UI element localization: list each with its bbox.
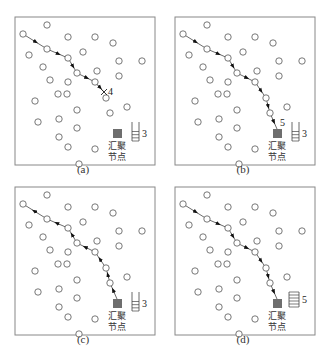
sensor-node [200, 64, 206, 70]
sensor-node [234, 277, 240, 283]
sensor-node [252, 34, 258, 40]
sink-label-line2: 节点 [268, 322, 286, 332]
direction-arrow-icon [216, 223, 219, 224]
sensor-node [207, 247, 213, 253]
sensor-node [92, 204, 98, 210]
sensor-node [299, 228, 305, 234]
sensor-node [92, 249, 98, 255]
panel-border [175, 187, 315, 335]
sensor-node [80, 49, 86, 55]
sensor-node [92, 79, 98, 85]
panel-border [175, 17, 315, 165]
sensor-node [224, 261, 230, 267]
sensor-node [47, 247, 53, 253]
direction-arrow-icon [259, 88, 261, 90]
buffer-count-label: 3 [142, 298, 147, 309]
sink-node-icon [273, 299, 282, 308]
sensor-node [180, 31, 186, 37]
direction-arrow-icon [244, 77, 247, 78]
sensor-node [276, 73, 282, 79]
sensor-node [74, 107, 80, 113]
sensor-node [252, 79, 258, 85]
direction-arrow-icon [98, 86, 100, 88]
direction-arrow-icon [108, 275, 109, 278]
sensor-node [20, 201, 26, 207]
sink-label-line1: 汇聚 [108, 311, 126, 321]
sensor-node [263, 95, 269, 101]
sensor-node [195, 119, 201, 125]
direction-arrow-icon [33, 40, 36, 42]
sensor-node [124, 104, 130, 110]
sensor-node [225, 204, 231, 210]
panel-c: 汇聚节点3 [15, 187, 155, 337]
sensor-node [284, 274, 290, 280]
panel-border [15, 187, 155, 335]
buffer-count-label: 3 [142, 128, 147, 139]
sensor-node [284, 104, 290, 110]
sensor-node [74, 295, 80, 301]
sensor-node [224, 91, 230, 97]
sensor-node [225, 314, 231, 320]
sensor-node [35, 289, 41, 295]
sensor-node [204, 192, 210, 198]
sensor-node [55, 261, 61, 267]
sensor-node [92, 34, 98, 40]
sensor-node [44, 46, 50, 52]
sensor-node [107, 110, 113, 116]
sensor-node [74, 125, 80, 131]
sensor-node [20, 31, 26, 37]
sensor-node [74, 70, 80, 76]
sink-label-line2: 节点 [108, 152, 126, 162]
direction-arrow-icon [57, 223, 60, 224]
direction-arrow-icon [267, 104, 268, 107]
sensor-node [116, 228, 122, 234]
sensor-node [252, 316, 258, 322]
sensor-node [80, 219, 86, 225]
sensor-node [263, 265, 269, 271]
sink-label-line2: 节点 [108, 322, 126, 332]
sensor-node [252, 204, 258, 210]
sensor-node [234, 70, 240, 76]
sensor-node [26, 52, 32, 58]
sensor-node [234, 240, 240, 246]
direction-arrow-icon [72, 235, 74, 238]
sensor-node [65, 144, 71, 150]
sensor-node [40, 64, 46, 70]
sensor-node [225, 249, 231, 255]
sensor-node [74, 240, 80, 246]
sensor-node [65, 79, 71, 85]
sensor-node [65, 225, 71, 231]
buffer-count-label: 3 [302, 128, 307, 139]
sink-label-line1: 汇聚 [268, 141, 286, 151]
sensor-node [116, 243, 122, 249]
sensor-node [192, 268, 198, 274]
sensor-node [186, 52, 192, 58]
sensor-node [64, 91, 70, 97]
sensor-node [225, 225, 231, 231]
sensor-node [44, 192, 50, 198]
sensor-node [56, 286, 62, 292]
direction-arrow-icon [71, 64, 73, 67]
sensor-node [65, 55, 71, 61]
caption-a: (a) [63, 163, 103, 175]
sensor-node [276, 228, 282, 234]
caption-b: (b) [223, 163, 263, 175]
sensor-node [32, 268, 38, 274]
hop-count-label: 5 [280, 117, 285, 128]
caption-d: (d) [223, 333, 263, 345]
sensor-node [252, 146, 258, 152]
sensor-node [74, 277, 80, 283]
sensor-node [107, 280, 113, 286]
sensor-node [225, 34, 231, 40]
sensor-node [270, 210, 276, 216]
direction-arrow-icon [100, 259, 102, 261]
buffer-count-label: 5 [302, 294, 307, 305]
sensor-node [216, 116, 222, 122]
sink-label-line2: 节点 [268, 152, 286, 162]
sensor-node [139, 228, 145, 234]
sensor-node [204, 22, 210, 28]
drop-cross-icon [101, 89, 107, 95]
sink-label-line1: 汇聚 [108, 141, 126, 151]
sink-node-icon [113, 299, 122, 308]
direction-arrow-icon [193, 210, 196, 212]
